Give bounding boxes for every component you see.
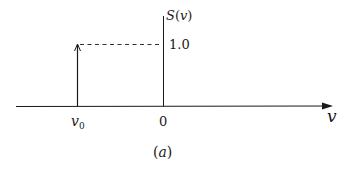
y-axis-label: S(v): [166, 8, 192, 23]
impulse-position-var: v: [71, 113, 79, 129]
origin-label: 0: [159, 114, 167, 129]
impulse-position-sub: 0: [79, 121, 85, 131]
impulse-diagram: S(v) 1.0 0 v v0 (a): [0, 0, 355, 176]
figure-caption: (a): [153, 144, 172, 160]
impulse-position-label: v0: [71, 113, 85, 131]
tick-label-1: 1.0: [169, 37, 190, 52]
x-axis-label: v: [327, 106, 337, 126]
x-axis: [16, 106, 326, 107]
